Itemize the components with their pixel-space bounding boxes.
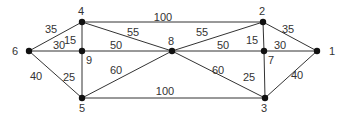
- node-label: 6: [12, 45, 18, 57]
- edge-weight-label: 35: [45, 23, 57, 35]
- edge-weight-label: 60: [110, 64, 122, 76]
- edge-weight-label: 40: [30, 70, 42, 82]
- node-9: [79, 48, 85, 54]
- node-7: [261, 48, 267, 54]
- node-label: 3: [261, 102, 267, 114]
- node-6: [26, 48, 32, 54]
- weighted-graph-diagram: 35304015251005550601005550601525353040 1…: [0, 0, 341, 122]
- edge-weight-label: 60: [212, 64, 224, 76]
- node-label: 1: [329, 45, 335, 57]
- edge-7-3: [264, 51, 265, 98]
- edge-weight-label: 15: [246, 34, 258, 46]
- edge-weight-label: 50: [110, 39, 122, 51]
- node-label: 7: [268, 54, 274, 66]
- node-label: 5: [79, 102, 85, 114]
- edge-weight-label: 100: [156, 85, 174, 97]
- node-8: [169, 48, 175, 54]
- node-label: 8: [168, 35, 174, 47]
- edge-weight-label: 35: [282, 23, 294, 35]
- edge-weight-label: 55: [196, 26, 208, 38]
- edge-weight-label: 25: [63, 71, 75, 83]
- edge-weight-label: 25: [243, 71, 255, 83]
- node-3: [262, 95, 268, 101]
- node-label: 4: [78, 5, 84, 17]
- node-label: 9: [86, 54, 92, 66]
- edge-weight-label: 30: [274, 39, 286, 51]
- edge-weight-label: 40: [291, 69, 303, 81]
- node-5: [79, 95, 85, 101]
- edge-weight-label: 100: [154, 11, 172, 23]
- edge-2-7: [263, 22, 264, 51]
- edge-weight-label: 55: [127, 26, 139, 38]
- node-4: [79, 19, 85, 25]
- node-2: [260, 19, 266, 25]
- edge-weight-label: 50: [217, 39, 229, 51]
- edge-weight-label: 15: [64, 34, 76, 46]
- node-1: [314, 48, 320, 54]
- node-label: 2: [259, 5, 265, 17]
